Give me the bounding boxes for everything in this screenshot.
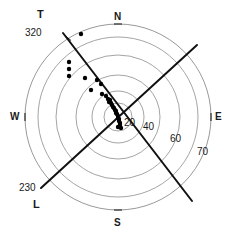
l-axis-letter-label: L (33, 199, 40, 210)
cardinal-label-north: N (114, 12, 121, 22)
t-axis-bearing-label: 320 (25, 28, 42, 38)
data-point (67, 74, 71, 78)
data-point (67, 60, 71, 64)
data-point (79, 32, 83, 36)
data-point (119, 126, 123, 130)
l-axis-bearing-label: 230 (19, 183, 36, 193)
t-axis-letter-label: T (37, 9, 44, 20)
radial-tick-label-40: 40 (143, 122, 154, 132)
radial-tick-label-70: 70 (197, 147, 208, 157)
data-point (89, 88, 93, 92)
radial-tick-label-60: 60 (170, 134, 181, 144)
radial-tick-label-20: 20 (124, 118, 135, 128)
stereonet-figure: N E S W 20 40 60 70 T 320 230 L (0, 0, 235, 238)
data-point (99, 82, 103, 86)
cardinal-label-west: W (10, 112, 19, 122)
data-point (100, 92, 104, 96)
cardinal-label-south: S (114, 218, 121, 228)
cardinal-label-east: E (215, 112, 222, 122)
data-point (95, 78, 99, 82)
data-point-group (67, 32, 123, 130)
data-point (83, 76, 87, 80)
data-point (67, 67, 71, 71)
